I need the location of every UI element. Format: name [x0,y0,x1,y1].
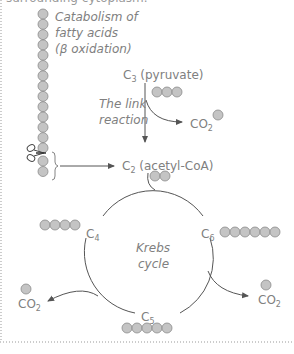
bead [220,227,230,237]
c6-label: C6 [201,227,214,246]
bead [38,30,48,40]
pyruvate-beads [152,87,182,97]
bead [38,133,48,143]
bead [38,122,48,132]
bead [260,227,270,237]
bead [270,227,280,237]
fatty-acid-label-1: Catabolism of [55,10,138,24]
co2-right-bead [261,280,271,290]
fatty-acid-label-3: (β oxidation) [55,42,132,56]
bead [152,87,162,97]
link-reaction-label-1: The link [99,97,146,111]
co2-top-label: CO2 [190,117,213,136]
bead [38,112,48,122]
bead [172,87,182,97]
c5-label: C5 [141,310,154,329]
cycle-arc-right [180,238,213,313]
bead [38,91,48,101]
bead [250,227,260,237]
bead [38,81,48,91]
fatty-acid-label-2: fatty acids [55,26,118,40]
cycle-arc-top [103,191,203,216]
co2-left-label: CO2 [18,297,41,316]
bead [38,40,48,50]
bead [38,167,48,177]
bead [40,220,50,230]
c4-beads [40,220,80,230]
bead [38,156,48,166]
c6-beads [220,227,280,237]
co2-left-bead [21,284,31,294]
bead [38,102,48,112]
bead [38,71,48,81]
krebs-label-2: cycle [138,257,169,271]
bead [162,323,172,333]
c4-label: C4 [86,227,99,246]
arrow-co2-left [48,291,98,301]
co2-right-label: CO2 [258,293,281,312]
bead [70,220,80,230]
bead [122,323,132,333]
link-reaction-label-2: reaction [99,113,148,127]
bead [230,227,240,237]
bead [38,19,48,29]
bracket [52,152,58,180]
acetyl-label: C2 (acetyl-CoA) [122,159,213,178]
bead [60,220,70,230]
arrow-link-co2 [146,100,182,122]
co2-top-bead [213,110,223,120]
bead [38,61,48,71]
bead [162,87,172,97]
bead [38,9,48,19]
bead [240,227,250,237]
pyruvate-label: C3 (pyruvate) [123,68,203,87]
cycle-arc-left [84,238,135,313]
arrow-co2-right [208,271,248,296]
krebs-label-1: Krebs [136,241,170,255]
bead [38,50,48,60]
bead [50,220,60,230]
